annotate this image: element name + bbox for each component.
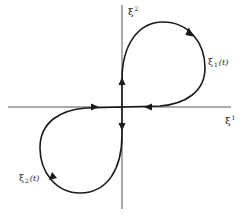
- xi1-axis-label: ξ1: [225, 115, 235, 126]
- xi1-curve-label: ξ1(t): [208, 58, 228, 68]
- arrow-right-icon: [91, 104, 99, 111]
- curve-symbol: ξ: [19, 173, 24, 183]
- arrow-up-icon: [119, 77, 126, 85]
- axis-index: 1: [232, 114, 236, 121]
- curve-argument: (t): [30, 174, 39, 183]
- axis-symbol: ξ: [225, 115, 231, 126]
- arrow-lower-loop-icon: [49, 172, 57, 180]
- curve-argument: (t): [219, 58, 228, 67]
- curve-index: 1: [214, 61, 218, 68]
- arrow-down-icon: [119, 123, 126, 131]
- axis-symbol: ξ: [128, 6, 134, 17]
- arrow-left-icon: [144, 104, 152, 111]
- xi2-curve-label: ξ2(t): [19, 174, 39, 184]
- axis-index: 2: [135, 5, 139, 12]
- lower-loop-curve: [40, 107, 122, 193]
- xi2-axis-label: ξ2: [128, 6, 138, 17]
- curve-index: 2: [25, 177, 29, 184]
- curve-symbol: ξ: [208, 57, 213, 67]
